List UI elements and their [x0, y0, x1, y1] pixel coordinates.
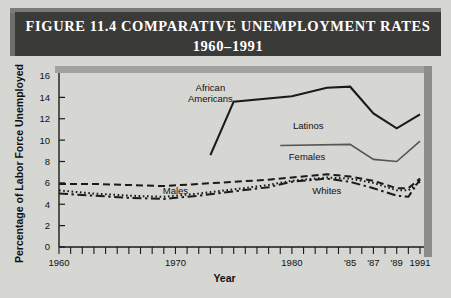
x-axis-tick-label: 1980 — [281, 257, 302, 268]
y-axis-tick-label: 0 — [45, 241, 50, 252]
x-axis-tick-label: '85 — [344, 257, 356, 268]
figure-title-line-2: 1960–1991 — [15, 37, 441, 57]
y-axis-tick-label: 14 — [39, 92, 50, 103]
series-label-females: Females — [289, 151, 326, 162]
plot-top-bevel — [55, 66, 432, 73]
plot-background — [51, 66, 432, 249]
y-axis-tick-label: 4 — [45, 199, 50, 210]
figure-title-line-1: FIGURE 11.4 COMPARATIVE UNEMPLOYMENT RAT… — [15, 17, 441, 37]
plot-right-bevel — [424, 66, 432, 257]
chart-area: 0246810121416 196019701980'85'87'891991 … — [0, 58, 451, 298]
series-label-whites: Whites — [312, 185, 341, 196]
figure-title-banner: FIGURE 11.4 COMPARATIVE UNEMPLOYMENT RAT… — [10, 8, 441, 56]
x-axis-tick-label: 1960 — [48, 257, 69, 268]
series-label-african-americans: African — [196, 82, 226, 93]
unemployment-line-chart: 0246810121416 196019701980'85'87'891991 … — [0, 58, 451, 298]
y-axis-tick-label: 12 — [39, 113, 50, 124]
y-axis-tick-label: 8 — [45, 156, 50, 167]
x-axis: 196019701980'85'87'891991 — [48, 247, 430, 268]
x-axis-tick-label: '87 — [367, 257, 379, 268]
y-axis-tick-label: 16 — [39, 70, 50, 81]
y-axis-tick-label: 6 — [45, 177, 50, 188]
x-axis-tick-label: 1970 — [165, 257, 186, 268]
series-label-african-americans: Americans — [188, 93, 233, 104]
x-axis-tick-label: 1991 — [409, 257, 430, 268]
figure-container: FIGURE 11.4 COMPARATIVE UNEMPLOYMENT RAT… — [0, 0, 451, 298]
y-axis-tick-label: 10 — [39, 135, 50, 146]
x-axis-tick-label: '89 — [391, 257, 403, 268]
series-label-males: Males — [163, 185, 189, 196]
x-axis-title: Year — [213, 272, 235, 284]
series-label-latinos: Latinos — [293, 120, 324, 131]
plot-frame — [51, 66, 432, 257]
figure-title: FIGURE 11.4 COMPARATIVE UNEMPLOYMENT RAT… — [15, 12, 441, 56]
y-axis-tick-label: 2 — [45, 220, 50, 231]
y-axis-title: Percentage of Labor Force Unemployed — [13, 64, 25, 263]
